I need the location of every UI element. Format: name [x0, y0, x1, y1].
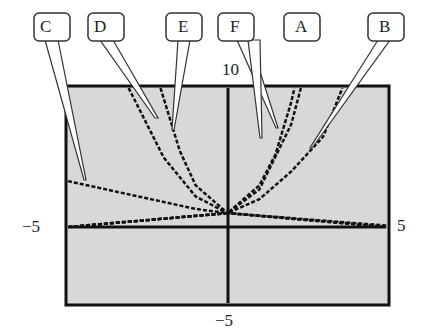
- callout-E: E: [178, 17, 188, 37]
- callout-boxes: [34, 13, 404, 41]
- callout-C: C: [40, 17, 51, 37]
- ymax-label: 10: [222, 60, 239, 80]
- callout-F: F: [230, 17, 239, 37]
- xmax-label: 5: [397, 216, 406, 236]
- ymin-label: −5: [215, 311, 233, 331]
- xmin-label: −5: [22, 217, 40, 237]
- callout-D: D: [94, 17, 106, 37]
- callout-A: A: [295, 17, 307, 37]
- callout-B: B: [379, 17, 390, 37]
- chart-svg: [0, 0, 426, 335]
